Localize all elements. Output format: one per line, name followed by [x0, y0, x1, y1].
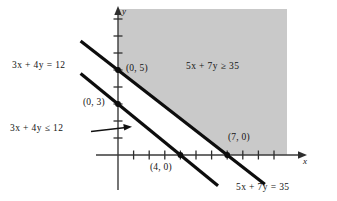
shaded-region-5x7y-ge-35 — [118, 9, 287, 155]
x-axis-label: x — [303, 156, 307, 166]
point-0-5 — [115, 67, 121, 73]
inequality-graph-figure: 3x + 4y = 12 5x + 7y = 35 3x + 4y ≤ 12 5… — [0, 0, 337, 201]
point-7-0 — [224, 152, 230, 158]
label-region-3x-4y-le-12: 3x + 4y ≤ 12 — [10, 124, 63, 134]
label-line-3x-4y-12: 3x + 4y = 12 — [12, 61, 66, 71]
label-line-5x-7y-35: 5x + 7y = 35 — [236, 183, 290, 193]
label-point-0-3: (0, 3) — [83, 98, 105, 108]
region-annotation-arrow — [91, 124, 132, 132]
label-point-4-0: (4, 0) — [150, 163, 172, 173]
point-0-3 — [115, 101, 121, 107]
point-4-0 — [178, 152, 184, 158]
y-axis-label: y — [122, 6, 126, 16]
label-point-7-0: (7, 0) — [228, 133, 250, 143]
label-region-5x-7y-ge-35: 5x + 7y ≥ 35 — [186, 62, 239, 72]
label-point-0-5: (0, 5) — [126, 64, 148, 74]
